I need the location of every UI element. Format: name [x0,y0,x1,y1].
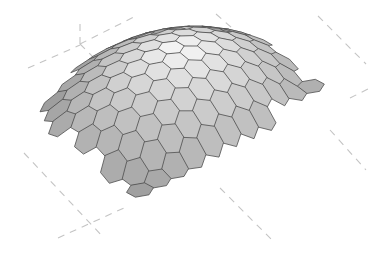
hex-panel-surface [40,26,324,197]
guide-axis-bottom-left-cross [58,207,126,238]
guide-axis-bottom-left-diagonal [24,153,104,238]
guide-axis-top-left-horizontal [28,45,80,68]
render-viewport [0,0,386,257]
guide-axis-top-right-b [318,16,366,64]
guide-axis-top-right-a [216,14,232,28]
guide-axis-right-short [350,88,370,98]
guide-axis-right-descending [330,130,366,170]
hex-shell-render [0,0,386,257]
guide-axis-bottom-right [220,188,272,240]
